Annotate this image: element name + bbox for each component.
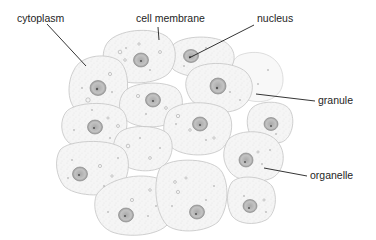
cells-illustration	[0, 0, 376, 240]
cytoplasm-leader-line	[47, 24, 86, 66]
nucleus	[190, 205, 205, 219]
nucleus	[264, 118, 278, 131]
nucleus	[90, 81, 106, 96]
granule-label: granule	[318, 95, 353, 106]
organelle-label: organelle	[310, 170, 353, 181]
cytoplasm-label: cytoplasm	[17, 13, 64, 24]
cell-membrane-label: cell membrane	[136, 13, 205, 24]
cell	[156, 160, 227, 231]
nucleus	[119, 208, 134, 222]
cell-diagram: cytoplasm cell membrane nucleus granule …	[0, 0, 376, 240]
nucleus	[184, 50, 199, 63]
nucleus	[73, 167, 88, 181]
nucleus	[243, 200, 257, 213]
cell	[224, 132, 284, 182]
nucleus-label: nucleus	[257, 13, 293, 24]
nucleus	[239, 153, 253, 167]
nucleus	[88, 120, 103, 134]
nucleus	[210, 78, 226, 94]
